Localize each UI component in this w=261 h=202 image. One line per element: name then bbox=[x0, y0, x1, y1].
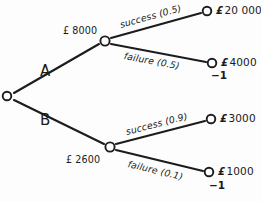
currency-symbol: £ bbox=[216, 5, 225, 16]
currency-symbol: £ bbox=[221, 57, 230, 68]
node-value-a: £ 8000 bbox=[63, 26, 97, 36]
branch-root-to-a bbox=[14, 44, 99, 93]
payoff-a-success-value: 20 000 bbox=[225, 4, 261, 16]
payoff-b-failure-value: 1000 bbox=[227, 165, 254, 177]
decision-tree-figure: A B £ 8000 £ 2600 success (0.5) failure … bbox=[0, 0, 261, 202]
annotation-b-failure-note: −1 bbox=[209, 180, 225, 191]
currency-symbol: £ bbox=[218, 166, 227, 177]
outcome-node-a-failure bbox=[208, 59, 217, 68]
chance-node-b bbox=[105, 142, 114, 151]
outcome-node-a-success bbox=[203, 7, 212, 16]
option-label-a: A bbox=[40, 64, 51, 79]
branch-root-to-b bbox=[14, 100, 104, 144]
chance-node-a bbox=[100, 36, 109, 45]
payoff-a-failure-value: 4000 bbox=[230, 56, 257, 68]
currency-symbol: £ bbox=[220, 113, 229, 124]
payoff-b-success-value: 3000 bbox=[229, 112, 256, 124]
outcome-node-b-success bbox=[207, 115, 216, 124]
annotation-a-failure-note: −1 bbox=[211, 70, 227, 81]
option-label-b: B bbox=[40, 113, 51, 128]
root-decision-node bbox=[3, 92, 12, 101]
node-value-b: £ 2600 bbox=[66, 155, 100, 165]
payoff-b-failure: £1000 bbox=[218, 166, 254, 177]
payoff-a-success: £20 000 bbox=[216, 5, 261, 16]
payoff-b-success: £3000 bbox=[220, 113, 256, 124]
outcome-node-b-failure bbox=[205, 168, 214, 177]
payoff-a-failure: £4000 bbox=[221, 57, 257, 68]
